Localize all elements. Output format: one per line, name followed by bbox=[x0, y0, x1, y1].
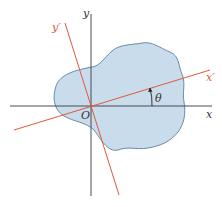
region-shape bbox=[54, 43, 185, 151]
rotated-axes-diagram: y y′ x′ x O θ bbox=[0, 0, 222, 207]
y-axis-label: y bbox=[82, 7, 90, 20]
y-prime-axis-label: y′ bbox=[51, 21, 61, 34]
x-axis-label: x bbox=[206, 108, 213, 121]
origin-label: O bbox=[81, 109, 90, 122]
angle-label: θ bbox=[155, 92, 162, 105]
x-prime-axis-label: x′ bbox=[206, 71, 215, 84]
